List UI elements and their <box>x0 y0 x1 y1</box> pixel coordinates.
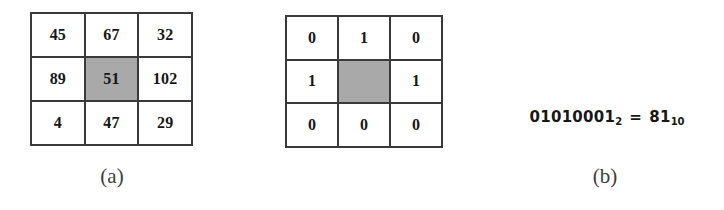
grid-cell: 0 <box>391 17 441 59</box>
grid-cell: 89 <box>32 58 84 100</box>
intensity-grid: 45 67 32 89 51 102 4 47 29 <box>30 12 193 146</box>
grid-cell: 0 <box>391 104 441 146</box>
grid-cell: 47 <box>86 102 138 144</box>
figure-container: 45 67 32 89 51 102 4 47 29 (a) 0 1 0 1 1… <box>0 0 724 210</box>
grid-cell: 4 <box>32 102 84 144</box>
grid-cell: 102 <box>139 58 191 100</box>
grid-cell: 0 <box>287 17 337 59</box>
grid-cell-center-shaded <box>339 61 389 103</box>
binary-grid: 0 1 0 1 1 0 0 0 <box>285 15 443 148</box>
equation-binary-base: 2 <box>615 116 622 127</box>
panel-caption-a: (a) <box>77 166 147 187</box>
equation-decimal-value: 81 <box>649 108 670 126</box>
panel-c: 010100012=8110 (c) <box>490 0 724 210</box>
grid-cell: 1 <box>287 61 337 103</box>
grid-cell: 1 <box>391 61 441 103</box>
panel-b: 0 1 0 1 1 0 0 0 (b) <box>240 0 490 210</box>
grid-cell: 1 <box>339 17 389 59</box>
grid-cell: 0 <box>287 104 337 146</box>
equation-binary-value: 01010001 <box>529 108 615 126</box>
panel-a: 45 67 32 89 51 102 4 47 29 (a) <box>0 0 240 210</box>
equation-decimal-base: 10 <box>671 116 685 127</box>
grid-cell: 0 <box>339 104 389 146</box>
grid-cell: 67 <box>86 14 138 56</box>
grid-cell: 29 <box>139 102 191 144</box>
grid-cell: 45 <box>32 14 84 56</box>
equation-operator: = <box>629 108 642 126</box>
grid-cell: 32 <box>139 14 191 56</box>
binary-decimal-equation: 010100012=8110 <box>490 108 724 126</box>
grid-cell-center-shaded: 51 <box>86 58 138 100</box>
